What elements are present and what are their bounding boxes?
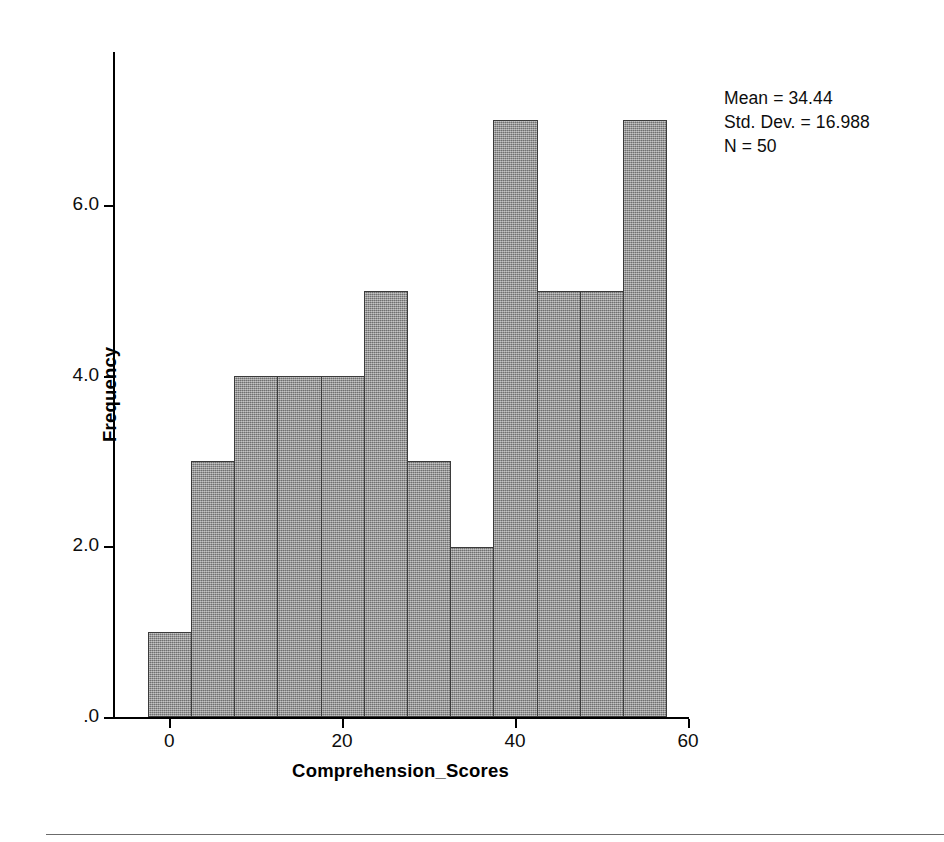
std-dev-label: Std. Dev. = 16.988 bbox=[724, 110, 870, 134]
x-tick bbox=[515, 719, 517, 728]
histogram-bar bbox=[493, 120, 537, 717]
y-tick-label: 2.0 bbox=[73, 534, 99, 556]
histogram-bar bbox=[407, 461, 451, 717]
y-tick-label: 4.0 bbox=[73, 364, 99, 386]
x-tick-label: 20 bbox=[332, 730, 353, 752]
x-tick-label: 0 bbox=[164, 730, 175, 752]
histogram-bar bbox=[148, 632, 192, 717]
bottom-divider bbox=[46, 834, 944, 835]
histogram-bar bbox=[234, 376, 278, 717]
histogram-bar bbox=[450, 547, 494, 718]
histogram-bar bbox=[321, 376, 365, 717]
x-axis-line bbox=[113, 717, 689, 719]
x-tick-label: 60 bbox=[677, 730, 698, 752]
y-tick-label: 6.0 bbox=[73, 193, 99, 215]
bar-series bbox=[113, 52, 688, 717]
histogram-bar bbox=[623, 120, 667, 717]
y-tick: .0 bbox=[104, 717, 113, 719]
y-tick-label: .0 bbox=[83, 705, 99, 727]
x-tick bbox=[169, 719, 171, 728]
x-axis-title: Comprehension_Scores bbox=[113, 760, 688, 782]
histogram-bar bbox=[364, 291, 408, 717]
histogram-bar bbox=[191, 461, 235, 717]
y-tick: 2.0 bbox=[104, 546, 113, 548]
sample-size-label: N = 50 bbox=[724, 134, 870, 158]
mean-label: Mean = 34.44 bbox=[724, 86, 870, 110]
y-axis-title: Frequency bbox=[99, 347, 121, 442]
x-tick bbox=[688, 719, 690, 728]
histogram-figure: Mean = 34.44 Std. Dev. = 16.988 N = 50 .… bbox=[0, 0, 944, 842]
histogram-bar bbox=[537, 291, 581, 717]
plot-area: .02.04.06.0 0204060 Frequency bbox=[113, 52, 688, 717]
histogram-bar bbox=[580, 291, 624, 717]
histogram-bar bbox=[277, 376, 321, 717]
statistics-annotation: Mean = 34.44 Std. Dev. = 16.988 N = 50 bbox=[724, 86, 870, 158]
y-tick: 6.0 bbox=[104, 205, 113, 207]
x-tick-label: 40 bbox=[504, 730, 525, 752]
x-tick bbox=[342, 719, 344, 728]
